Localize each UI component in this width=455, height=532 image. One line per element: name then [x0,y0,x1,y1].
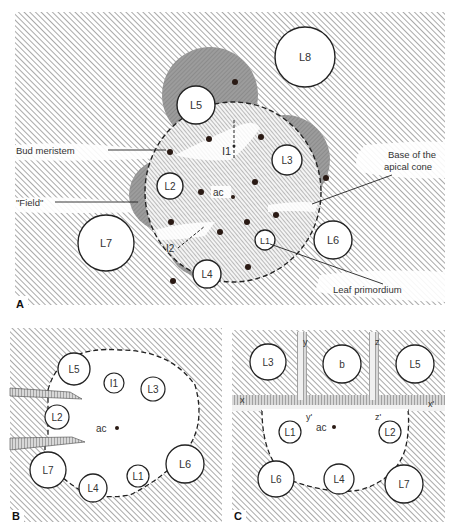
svg-text:L1: L1 [284,427,296,438]
c-primordium-l6: L6 [258,461,294,497]
svg-text:L6: L6 [327,234,339,246]
b-primordium-l7: L7 [30,452,66,488]
primordium-l2: L2 [157,173,183,199]
c-primordium-l4: L4 [324,464,354,494]
svg-text:L1: L1 [260,236,270,246]
svg-text:L8: L8 [299,51,311,63]
svg-text:L4: L4 [87,483,99,494]
b-primordium-l4: L4 [79,474,107,502]
figure-canvas: L8 L5 L3 L2 L7 L6 L4 L1 [0,0,455,532]
svg-text:L3: L3 [147,384,159,395]
b-primordium-l1: L1 [127,465,149,487]
primordium-l6: L6 [314,221,352,259]
svg-text:b: b [339,359,345,370]
callout-base-line2: apical cone [384,161,432,172]
b-apical-center-label: ac [96,423,107,434]
panel-c-letter: C [234,510,242,522]
panel-b-letter: B [12,510,20,522]
b-primordium-l2: L2 [45,405,69,429]
svg-text:L2: L2 [384,427,396,438]
c-apical-center-label: ac [316,422,327,433]
panel-c: L3 b L5 x x' y y' z z' L1 ac L2 L6 [232,330,445,523]
c-primordium-l1: L1 [279,421,301,443]
svg-text:L5: L5 [190,99,202,111]
callout-field: "Field" [16,197,43,208]
c-primordium-l2: L2 [379,421,401,443]
b-incipient-i1: I1 [104,373,124,393]
svg-text:L7: L7 [398,479,410,490]
primordium-l3: L3 [272,145,302,175]
panel-b: L5 I1 L3 L2 ac L7 L4 L1 L6 [10,328,222,523]
primordium-l8: L8 [275,27,335,87]
primordium-l7: L7 [78,215,134,271]
c-label-y-prime: y' [306,412,313,422]
b-apical-center-dot [115,426,119,430]
primordium-l1: L1 [255,230,275,250]
panel-a-letter: A [16,298,24,310]
b-primordium-l3: L3 [141,377,165,401]
svg-text:L4: L4 [201,269,213,280]
apical-center-dot [231,195,235,199]
incipient-i2: I2 [166,243,175,254]
c-primordium-l7: L7 [385,465,423,503]
c-label-z-prime: z' [375,412,382,422]
b-primordium-l6: L6 [166,445,204,483]
primordium-l4: L4 [193,260,221,288]
svg-text:L6: L6 [179,458,191,470]
primordium-l5: L5 [177,86,215,124]
callout-bud-meristem: Bud meristem [16,145,75,156]
svg-text:L1: L1 [132,471,144,482]
c-label-y: y [303,337,308,347]
c-bud: b [323,345,361,383]
svg-text:I1: I1 [110,378,119,389]
panel-a: L8 L5 L3 L2 L7 L6 L4 L1 [15,12,445,310]
c-apical-center-dot [332,425,336,429]
incipient-i1: I1 [222,145,231,157]
svg-text:L2: L2 [51,412,63,423]
c-primordium-l3: L3 [250,344,286,380]
svg-text:L5: L5 [409,359,421,370]
c-label-z: z [375,337,380,347]
svg-text:L3: L3 [262,357,274,368]
svg-text:L7: L7 [100,237,112,249]
svg-text:L6: L6 [270,474,282,485]
svg-text:L3: L3 [281,155,293,166]
svg-text:L4: L4 [333,474,345,485]
svg-text:L2: L2 [164,181,176,192]
b-primordium-l5: L5 [58,353,90,385]
c-label-x-prime: x' [428,399,435,409]
svg-text:L5: L5 [68,364,80,375]
svg-text:L7: L7 [42,465,54,476]
callout-leaf-primordium: Leaf primordium [333,284,402,295]
c-label-x: x [240,395,245,405]
c-primordium-l5: L5 [396,345,434,383]
apical-center-label: ac [213,187,224,198]
callout-base-line1: Base of the [388,149,436,160]
